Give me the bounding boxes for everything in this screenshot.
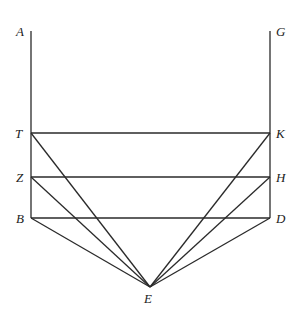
label-T: T	[15, 126, 23, 141]
label-D: D	[275, 211, 286, 226]
label-G: G	[276, 24, 286, 39]
line-TE	[31, 133, 150, 287]
label-Z: Z	[16, 170, 24, 185]
label-K: K	[275, 126, 286, 141]
label-E: E	[143, 291, 152, 306]
geometry-diagram: A G T K Z H B D E	[0, 0, 297, 320]
line-KE	[150, 133, 270, 287]
line-ZE	[31, 177, 150, 287]
line-HE	[150, 177, 270, 287]
line-DE	[150, 218, 270, 287]
label-H: H	[275, 170, 286, 185]
line-BE	[31, 218, 150, 287]
label-A: A	[15, 24, 24, 39]
label-B: B	[16, 211, 24, 226]
